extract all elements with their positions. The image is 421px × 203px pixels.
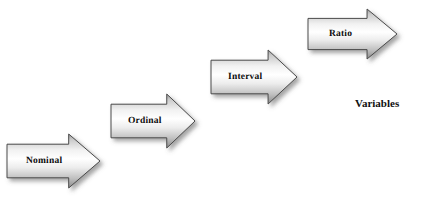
arrow-ratio: Ratio (307, 8, 398, 60)
arrow-ordinal: Ordinal (110, 93, 196, 149)
diagram-canvas: Nominal Ordinal (0, 0, 421, 203)
arrow-shape (211, 50, 297, 104)
variables-caption: Variables (355, 97, 399, 109)
arrow-shape (111, 94, 195, 148)
arrow-shape (7, 134, 100, 188)
arrow-shape (308, 9, 397, 59)
arrow-nominal: Nominal (6, 133, 101, 189)
arrow-interval: Interval (210, 49, 298, 105)
